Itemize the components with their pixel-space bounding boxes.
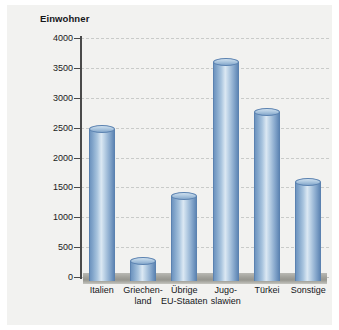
bar <box>171 192 197 281</box>
y-axis-tick-label: 4000 <box>27 33 73 43</box>
bar-top-ellipse <box>254 108 280 116</box>
bar-body <box>254 112 280 281</box>
bar <box>295 178 321 281</box>
bar-top-ellipse <box>295 178 321 186</box>
y-axis-tick <box>74 68 81 69</box>
y-axis-tick <box>74 217 81 218</box>
y-axis-tick-label: 1500 <box>27 182 73 192</box>
y-axis-tick <box>74 158 81 159</box>
bar <box>213 58 239 281</box>
x-axis-category-labels: ItalienGriechen- landÜbrige EU-StaatenJu… <box>81 285 329 325</box>
bar <box>254 108 280 281</box>
y-axis-tick-label: 500 <box>27 242 73 252</box>
y-axis-tick-label: 2500 <box>27 123 73 133</box>
bar <box>89 125 115 281</box>
bar-body <box>171 196 197 281</box>
y-axis-tick-label: 3500 <box>27 63 73 73</box>
y-axis-tick-label: 1000 <box>27 212 73 222</box>
chart-panel: Einwohner 050010001500200025003000350040… <box>7 5 332 325</box>
y-axis-tick <box>74 38 81 39</box>
bars-layer <box>81 5 329 325</box>
y-axis-tick-label: 3000 <box>27 93 73 103</box>
x-axis-category-label: Sonstige <box>282 285 335 296</box>
bar <box>130 257 156 281</box>
y-axis-tick-labels: 05001000150020002500300035004000 <box>21 5 73 325</box>
bar-body <box>213 62 239 281</box>
y-axis-tick <box>74 277 81 278</box>
bar-body <box>295 182 321 281</box>
y-axis-tick-label: 0 <box>27 272 73 282</box>
bar-body <box>89 129 115 281</box>
bar-top-ellipse <box>171 192 197 200</box>
y-axis-tick <box>74 98 81 99</box>
y-axis-tick <box>74 247 81 248</box>
y-axis-tick-label: 2000 <box>27 153 73 163</box>
bar-top-ellipse <box>89 125 115 133</box>
y-axis-tick <box>74 187 81 188</box>
y-axis-tick <box>74 128 81 129</box>
